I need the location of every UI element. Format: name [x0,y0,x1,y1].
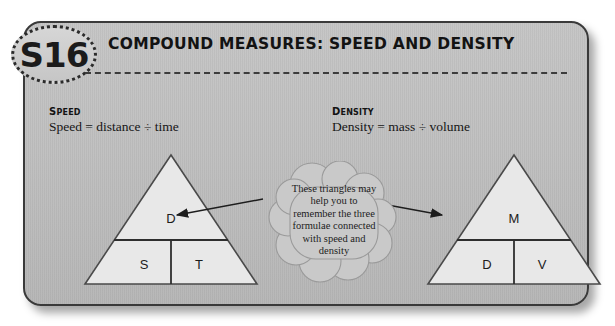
worksheet-page: S16 COMPOUND MEASURES: SPEED AND DENSITY… [0,0,615,326]
section-badge: S16 [11,25,97,84]
density-triangle-shape [425,152,603,287]
density-triangle: M D V [425,152,603,287]
section-badge-label: S16 [20,38,89,72]
callout-cloud: These triangles may help you to remember… [268,161,400,286]
dashed-divider [85,72,567,74]
speed-formula: Speed = distance ÷ time [49,119,179,135]
speed-heading: SPEED [49,102,81,118]
callout-text: These triangles may help you to remember… [288,183,380,257]
page-title: COMPOUND MEASURES: SPEED AND DENSITY [108,35,515,53]
speed-triangle-shape [82,152,260,287]
density-heading: DENSITY [332,102,374,118]
speed-triangle: D S T [82,152,260,287]
content-panel: S16 COMPOUND MEASURES: SPEED AND DENSITY… [23,21,589,306]
density-formula: Density = mass ÷ volume [332,119,470,135]
